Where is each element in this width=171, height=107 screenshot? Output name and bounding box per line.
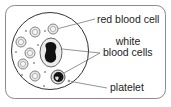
red-blood-cell [48,24,58,34]
red-blood-cell [25,48,35,58]
label-platelet: platelet [110,81,144,93]
platelet-dot [15,51,17,53]
platelet-dot [44,30,46,32]
platelet-dot [33,62,35,64]
label-red-blood-cell: red blood cell [97,13,159,25]
red-blood-cell [16,37,26,47]
platelet-dot [43,85,45,87]
white-blood-cell-small [51,70,65,84]
red-blood-cell [18,59,28,69]
label-white-blood-cells-line2: blood cells [103,46,153,58]
label-white-blood-cells-line1: white [115,35,141,47]
platelet-dot [25,30,27,32]
nucleus [45,42,57,63]
blood-components-diagram: red blood cell white blood cells platele… [0,0,171,107]
platelet-dot [68,80,71,83]
red-blood-cell [30,71,40,81]
platelet-dot [44,71,46,73]
red-blood-cell [30,27,40,37]
platelet-dot [21,74,23,76]
platelet-dot [37,44,39,46]
white-blood-cell-large [40,38,62,67]
